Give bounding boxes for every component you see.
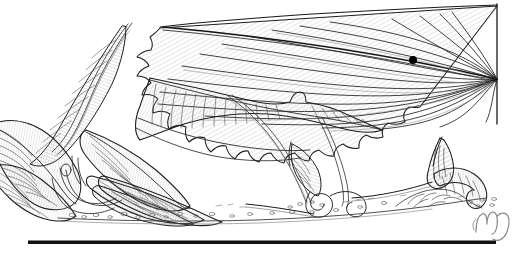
plate-rule — [28, 241, 496, 244]
botanical-drawing — [0, 0, 520, 253]
illustration-plate: Pen-and-ink botanical illustration of se… — [0, 0, 520, 253]
specimen-dot — [409, 56, 417, 64]
plate-rule-highlight — [28, 240, 496, 241]
